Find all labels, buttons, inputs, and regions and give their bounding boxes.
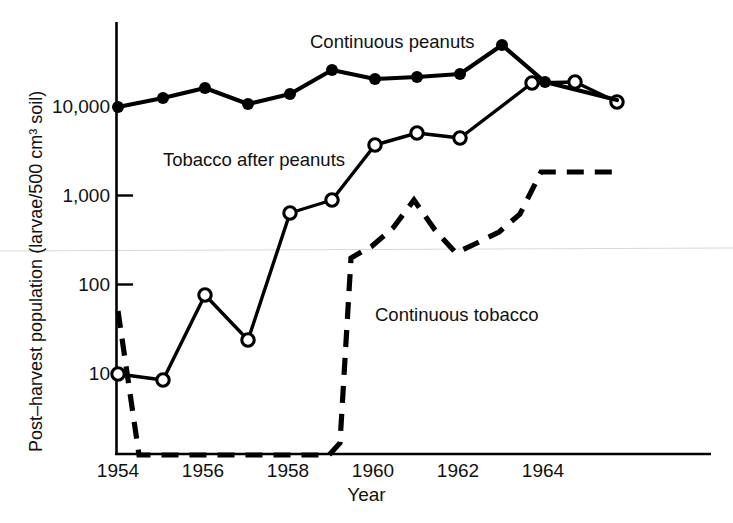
data-point — [369, 139, 381, 151]
data-point — [326, 64, 338, 76]
data-point — [411, 127, 423, 139]
data-point — [242, 334, 254, 346]
x-tick-label-1960: 1960 — [333, 460, 413, 482]
chart-plot-area — [0, 0, 733, 523]
annotation-tobacco-after-peanuts: Tobacco after peanuts — [163, 149, 345, 171]
data-point — [369, 73, 381, 85]
x-tick-label-1956: 1956 — [163, 460, 243, 482]
data-point — [157, 374, 169, 386]
series-continuous-peanuts-line — [118, 45, 617, 107]
data-point — [496, 39, 508, 51]
data-point — [199, 82, 211, 94]
x-axis-title: Year — [0, 484, 733, 506]
data-point — [326, 194, 338, 206]
data-point — [112, 368, 124, 380]
scan-artifact-line — [0, 248, 733, 251]
x-tick-label-1964: 1964 — [503, 460, 583, 482]
data-point — [242, 98, 254, 110]
x-tick-label-1958: 1958 — [248, 460, 328, 482]
series-tobacco-after-peanuts-line — [118, 82, 617, 380]
y-tick-label-100: 100 — [0, 274, 110, 296]
x-tick-label-1962: 1962 — [418, 460, 498, 482]
data-point — [157, 92, 169, 104]
annotation-continuous-tobacco: Continuous tobacco — [375, 304, 539, 326]
data-point — [284, 207, 296, 219]
data-point — [284, 88, 296, 100]
annotation-continuous-peanuts: Continuous peanuts — [310, 31, 475, 53]
series-continuous-tobacco-line — [118, 172, 617, 455]
x-tick-label-1954: 1954 — [78, 460, 158, 482]
chart-figure: 10,000 1,000 100 10 1954 1956 1958 1960 … — [0, 0, 733, 523]
y-tick-label-10000: 10,000 — [0, 96, 110, 118]
y-axis-ticks — [117, 196, 133, 285]
y-tick-label-10: 10 — [0, 363, 110, 385]
data-point — [539, 76, 551, 88]
y-tick-label-1000: 1,000 — [0, 185, 110, 207]
data-point — [454, 132, 466, 144]
data-point — [526, 77, 538, 89]
data-point — [112, 101, 124, 113]
data-point — [454, 68, 466, 80]
data-point — [199, 289, 211, 301]
y-axis-title: Post–harvest population (larvae/500 cm³ … — [26, 91, 47, 452]
series-tobacco-after-peanuts-markers — [112, 76, 623, 386]
data-point — [411, 71, 423, 83]
